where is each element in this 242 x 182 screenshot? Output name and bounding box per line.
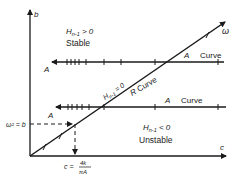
unstable-condition: Hn-1 < 0 bbox=[143, 123, 171, 133]
upper-a-end-label: A bbox=[183, 51, 189, 60]
c-formula-left: c = bbox=[64, 163, 74, 170]
c-formula-numerator: 4k bbox=[80, 160, 87, 166]
unstable-label: Unstable bbox=[139, 135, 173, 145]
stable-condition: Hn-1 > 0 bbox=[66, 27, 94, 37]
omega-sq-label: ω² = b bbox=[6, 121, 26, 128]
lower-a-curve-label: Curve bbox=[181, 96, 203, 105]
y-axis-label: b bbox=[34, 10, 39, 19]
x-axis-label: c bbox=[220, 143, 224, 152]
upper-a-curve-label: Curve bbox=[200, 51, 222, 60]
omega-line bbox=[30, 22, 225, 156]
upper-a-start-label: A bbox=[43, 65, 49, 74]
lower-a-end-label: A bbox=[164, 96, 170, 105]
c-formula-denominator: πA bbox=[79, 169, 87, 175]
omega-label: ω bbox=[222, 26, 229, 36]
lower-a-start-label: A bbox=[47, 111, 53, 120]
stable-label: Stable bbox=[66, 38, 90, 48]
stability-diagram: b c ω A A Curve A A Curve Hn-1 = 0 bbox=[0, 0, 242, 182]
